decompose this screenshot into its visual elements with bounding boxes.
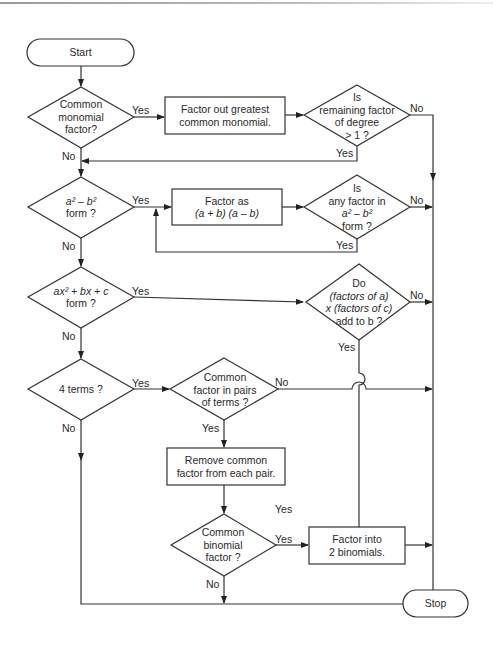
decision-factors-add-text: Do (factors of a) x (factors of c) add t…	[314, 276, 404, 328]
decision-diff-squares-text: a² – b² form ?	[40, 193, 122, 221]
edge-label-no: No	[275, 376, 288, 388]
edge-label-yes: Yes	[132, 285, 149, 297]
edge-label-yes: Yes	[132, 104, 149, 116]
edge-label-no: No	[62, 330, 75, 342]
decision-common-pairs-text: Common factor in pairs of terms ?	[180, 370, 270, 410]
edge-label-no: No	[62, 240, 75, 252]
decision-remaining-degree-text: Is remaining factor of degree > 1 ?	[312, 90, 402, 142]
edge-label-no: No	[410, 289, 423, 301]
edge-label-yes: Yes	[275, 533, 292, 545]
decision-common-binomial-text: Common binomial factor ?	[181, 525, 265, 565]
stop-label: Stop	[403, 590, 468, 617]
process-factor-binomials-text: Factor into 2 binomials.	[309, 527, 405, 564]
process-remove-common-pair-text: Remove common factor from each pair.	[167, 448, 285, 485]
start-label: Start	[27, 39, 134, 66]
decision-common-monomial-text: Common monomial factor?	[38, 96, 124, 138]
edge-label-no: No	[62, 422, 75, 434]
edge-label-no: No	[410, 194, 423, 206]
edge-label-no: No	[62, 150, 75, 162]
edge-label-yes: Yes	[132, 194, 149, 206]
edge-label-yes: Yes	[275, 503, 292, 515]
decision-four-terms-text: 4 terms ?	[40, 380, 122, 398]
edge-label-yes: Yes	[336, 239, 353, 251]
process-factor-gcm-text: Factor out greatest common monomial.	[165, 97, 285, 134]
edge-label-yes: Yes	[132, 377, 149, 389]
edge-label-no: No	[206, 578, 219, 590]
edge-label-yes: Yes	[338, 341, 355, 353]
decision-trinomial-text: ax² + bx + c form ?	[36, 283, 126, 311]
decision-any-factor-diff-squares-text: Is any factor in a² – b² form ?	[312, 181, 402, 233]
edge-label-yes: Yes	[336, 147, 353, 159]
process-factor-diff-squares-text: Factor as (a + b) (a – b)	[172, 189, 282, 225]
edge-label-yes: Yes	[202, 422, 219, 434]
edge-label-no: No	[410, 102, 423, 114]
